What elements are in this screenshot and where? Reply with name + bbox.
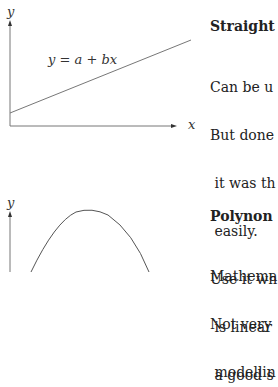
x-axis-label: x <box>188 117 195 132</box>
text-line: But done <box>210 127 277 143</box>
equation-label: y = a + bx <box>48 52 117 67</box>
y-axis-2-arrow-icon <box>8 211 12 217</box>
text-line: Not very <box>210 316 277 332</box>
text-line: Mathema <box>210 268 277 284</box>
text-line: it was th <box>210 175 277 191</box>
y-axis-arrow-icon <box>8 20 12 26</box>
linear-function-line <box>10 40 191 113</box>
y-axis-label: y <box>7 4 14 19</box>
section2-body: Mathema Not very modellin <box>210 236 277 387</box>
parabola-curve <box>31 210 149 272</box>
section-heading-polynomial: Polynon <box>210 208 273 224</box>
x-axis-arrow-icon <box>171 124 177 128</box>
section-heading-straight: Straight <box>210 18 275 34</box>
text-line: modellin <box>210 364 277 380</box>
y-axis-label-2: y <box>7 195 14 210</box>
text-line: Can be u <box>210 79 277 95</box>
